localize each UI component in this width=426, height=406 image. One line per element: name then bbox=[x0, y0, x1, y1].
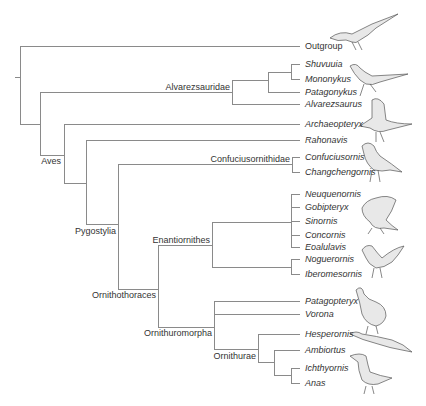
taxon-label-ichthyornis: Ichthyornis bbox=[305, 363, 349, 373]
clade-label-enantiornithes: Enantiornithes bbox=[152, 235, 210, 245]
clade-label-alvarezsauridae: Alvarezsauridae bbox=[165, 82, 230, 92]
taxon-label-iberomesornis: Iberomesornis bbox=[305, 269, 362, 279]
taxon-label-alvarezsaurus: Alvarezsaurus bbox=[305, 99, 362, 109]
taxon-label-anas: Anas bbox=[305, 378, 326, 388]
clade-label-pygostylia: Pygostylia bbox=[75, 226, 116, 236]
taxon-label-patagonykus: Patagonykus bbox=[305, 87, 357, 97]
taxon-label-vorona: Vorona bbox=[305, 309, 334, 319]
taxon-label-outgroup: Outgroup bbox=[305, 41, 343, 51]
clade-label-ornithothoraces: Ornithothoraces bbox=[92, 290, 156, 300]
root-branch bbox=[15, 46, 20, 124]
phylogenetic-tree bbox=[0, 0, 426, 406]
clade-label-ornithuromorpha: Ornithuromorpha bbox=[144, 328, 212, 338]
taxon-label-patagopteryx: Patagopteryx bbox=[305, 296, 358, 306]
patagopteryx-illustration bbox=[356, 288, 386, 334]
alvarezsaurid-illustration bbox=[350, 64, 408, 96]
clade-label-ornithurae: Ornithurae bbox=[213, 351, 256, 361]
taxon-label-shuvuuia: Shuvuuia bbox=[305, 59, 343, 69]
taxon-label-eoalulavis: Eoalulavis bbox=[305, 242, 346, 252]
archaeopteryx-illustration bbox=[360, 99, 412, 142]
taxon-label-neuquenornis: Neuquenornis bbox=[305, 189, 361, 199]
taxon-label-concornis: Concornis bbox=[305, 230, 346, 240]
taxon-label-archaeopteryx: Archaeopteryx bbox=[305, 119, 363, 129]
enantiornithine-illustration-1 bbox=[362, 196, 398, 234]
taxon-label-noguerornis: Noguerornis bbox=[305, 254, 354, 264]
enantiornithine-illustration-2 bbox=[362, 246, 404, 279]
clade-label-aves: Aves bbox=[41, 156, 61, 166]
taxon-label-confuciusornis: Confuciusornis bbox=[305, 152, 365, 162]
taxon-label-sinornis: Sinornis bbox=[305, 216, 338, 226]
taxon-label-changchengornis: Changchengornis bbox=[305, 167, 376, 177]
taxon-label-hesperornis: Hesperornis bbox=[305, 329, 354, 339]
taxon-label-ambiortus: Ambiortus bbox=[305, 345, 346, 355]
taxon-label-mononykus: Mononykus bbox=[305, 74, 351, 84]
taxon-label-gobipteryx: Gobipteryx bbox=[305, 202, 349, 212]
ichthyornis-illustration bbox=[350, 354, 392, 394]
hesperornis-illustration bbox=[350, 332, 412, 352]
clade-label-confuciusornithidae: Confuciusornithidae bbox=[210, 154, 290, 164]
taxon-label-rahonavis: Rahonavis bbox=[305, 135, 348, 145]
